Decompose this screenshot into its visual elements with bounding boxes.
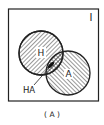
- universe-label: I: [90, 12, 93, 23]
- set-a-label: A: [65, 69, 72, 79]
- figure-caption: ( A ): [44, 110, 60, 119]
- set-h-label: H: [38, 48, 45, 58]
- intersection-label: HA: [23, 85, 35, 95]
- venn-diagram: H A HA I ( A ): [0, 0, 104, 125]
